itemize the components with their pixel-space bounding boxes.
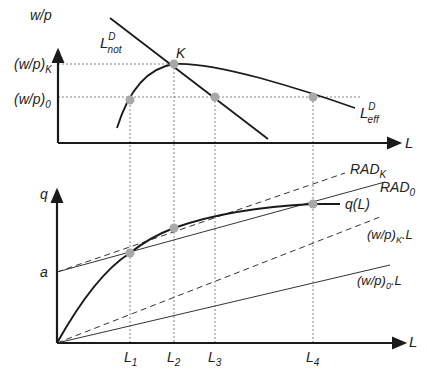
l-not-curve — [110, 18, 268, 139]
top-y-axis-label: w/p — [30, 7, 52, 23]
w0-l-line — [57, 265, 390, 343]
tick-l1: L1 — [124, 349, 137, 368]
top-x-axis-label: L — [405, 134, 413, 151]
bottom-y-axis-label: q — [40, 186, 48, 202]
tick-wk-label: (w/p)K — [14, 56, 53, 75]
bottom-panel: q L a q(L) RADK RAD0 (w/p)K.L (w/p)0.L L… — [40, 161, 417, 368]
rad-k-line — [57, 173, 345, 272]
q-curve — [57, 204, 340, 343]
wk-l-line — [57, 217, 380, 343]
tick-l2: L2 — [167, 349, 181, 368]
rad-0-label: RAD0 — [380, 179, 416, 198]
point-k-label: K — [176, 45, 186, 61]
l-eff-label: LDeff — [360, 101, 380, 125]
tick-l4: L4 — [306, 349, 320, 368]
wk-l-label: (w/p)K.L — [367, 227, 413, 245]
diagram-canvas: w/p L (w/p)K (w/p)0 K LDnot LDeff q L a … — [0, 0, 427, 373]
bottom-x-axis-label: L — [409, 333, 417, 350]
tick-w0-label: (w/p)0 — [14, 91, 51, 110]
top-points — [126, 60, 318, 105]
rad-k-label: RADK — [350, 161, 388, 180]
diagram: w/p L (w/p)K (w/p)0 K LDnot LDeff q L a … — [0, 0, 427, 373]
tick-l3: L3 — [208, 349, 222, 368]
intercept-a-label: a — [40, 264, 48, 280]
x-ticks: L1 L2 L3 L4 — [124, 349, 320, 368]
w0-l-label: (w/p)0.L — [357, 273, 402, 291]
q-curve-label: q(L) — [345, 196, 370, 212]
l-not-label: LDnot — [100, 31, 123, 55]
rad-0-line — [57, 182, 385, 272]
l-eff-curve — [117, 64, 355, 128]
